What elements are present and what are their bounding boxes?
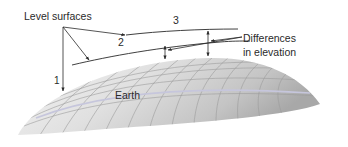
level-surfaces-label: Level surfaces	[24, 11, 92, 22]
surface-3-label: 3	[173, 15, 179, 26]
earth-label: Earth	[115, 90, 140, 101]
surface-2-label: 2	[118, 37, 124, 48]
elevation-arrows	[165, 31, 242, 59]
level-surface-3-line	[126, 29, 238, 35]
differences-line-2: in elevation	[243, 45, 296, 59]
pointer-to-surface-2	[63, 27, 89, 60]
differences-line-1: Differences	[243, 31, 296, 45]
surface-1-label: 1	[54, 76, 60, 86]
level-surfaces-diagram: Level surfaces 1 2 3 Differences in elev…	[0, 0, 348, 147]
differences-in-elevation-label: Differences in elevation	[243, 31, 296, 59]
pointer-to-surface-3	[63, 27, 125, 35]
diff-pointer-small	[168, 37, 242, 50]
